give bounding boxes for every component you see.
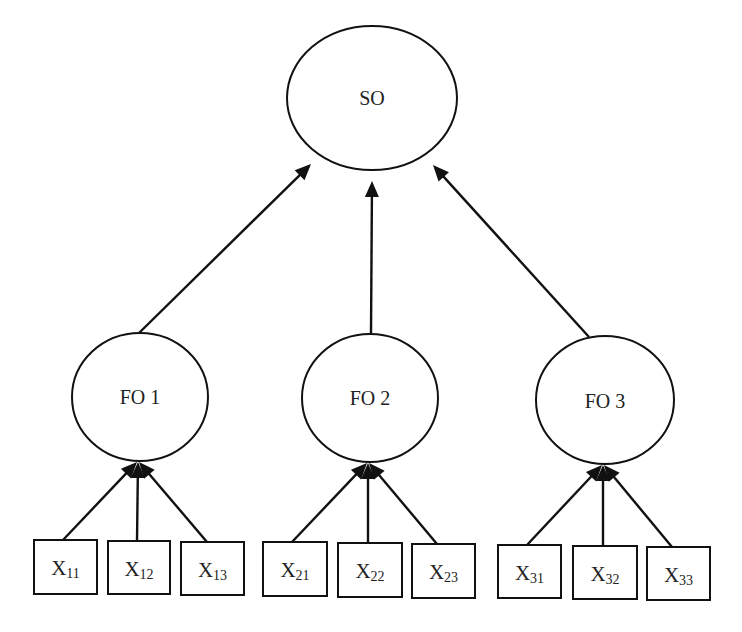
indicator-label-main: X <box>124 557 139 581</box>
indicator-label-main: X <box>515 561 530 585</box>
edge-line <box>63 472 127 540</box>
indicator-label-subscript: 23 <box>444 570 458 585</box>
node-fo3: FO 3 <box>536 336 674 464</box>
indicator-x11: X11 <box>34 540 97 594</box>
edge-line <box>613 476 672 547</box>
edge-x21-to-fo2 <box>292 463 367 542</box>
indicator-label-subscript: 31 <box>530 571 544 586</box>
edge-line <box>139 174 301 333</box>
indicator-label-main: X <box>198 558 213 582</box>
edge-line <box>371 195 372 334</box>
indicator-label-main: X <box>664 563 679 587</box>
edge-x11-to-fo1 <box>63 462 137 540</box>
hierarchical-factor-diagram: SO FO 1 FO 2 FO 3 X11X12X13X21X22X23X31X… <box>0 0 742 632</box>
indicator-label-main: X <box>280 558 295 582</box>
indicator-x31: X31 <box>498 545 561 598</box>
edge-line <box>148 473 207 542</box>
indicator-x22: X22 <box>338 543 402 597</box>
edge-line <box>137 476 138 541</box>
indicator-x12: X12 <box>108 541 170 594</box>
edge-fo3-to-so <box>433 165 589 337</box>
node-so: SO <box>287 26 457 170</box>
indicator-label-main: X <box>355 559 370 583</box>
fo3-label: FO 3 <box>585 390 626 412</box>
indicator-boxes-layer: X11X12X13X21X22X23X31X32X33 <box>34 540 710 600</box>
edge-x33-to-fo3 <box>604 465 672 547</box>
indicator-label-main: X <box>51 556 66 580</box>
indicator-label-main: X <box>429 560 444 584</box>
indicator-label-main: X <box>590 562 605 586</box>
arrowhead-icon <box>365 181 379 197</box>
indicator-x21: X21 <box>263 542 327 596</box>
indicator-x23: X23 <box>412 544 475 598</box>
fo2-label: FO 2 <box>350 387 391 409</box>
fo1-label: FO 1 <box>120 386 161 408</box>
edge-line <box>527 475 592 545</box>
indicator-label-subscript: 33 <box>679 573 693 588</box>
edge-fo1-to-so <box>139 164 311 333</box>
indicator-label-subscript: 12 <box>140 567 154 582</box>
node-fo2: FO 2 <box>302 334 438 462</box>
indicator-label-subscript: 11 <box>66 566 79 581</box>
indicator-x32: X32 <box>573 546 637 599</box>
edge-fo2-to-so <box>365 181 379 334</box>
edge-line <box>442 175 589 337</box>
edge-x31-to-fo3 <box>527 465 602 545</box>
so-label: SO <box>359 87 385 109</box>
indicator-x33: X33 <box>647 547 710 600</box>
indicator-label-subscript: 32 <box>606 572 620 587</box>
nodes-layer: SO FO 1 FO 2 FO 3 <box>72 26 674 464</box>
edge-x23-to-fo2 <box>369 463 437 544</box>
edge-line <box>378 474 437 544</box>
edge-x13-to-fo1 <box>139 462 207 542</box>
indicator-label-subscript: 22 <box>371 569 385 584</box>
node-fo1: FO 1 <box>72 333 208 461</box>
indicator-label-subscript: 21 <box>296 568 310 583</box>
indicator-x13: X13 <box>181 542 244 595</box>
edge-line <box>292 473 357 542</box>
indicator-label-subscript: 13 <box>213 568 227 583</box>
